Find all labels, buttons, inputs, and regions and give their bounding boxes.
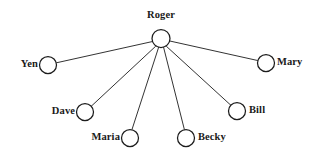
node-dave[interactable] bbox=[77, 104, 94, 121]
node-roger[interactable] bbox=[152, 30, 170, 48]
node-label-bill: Bill bbox=[249, 105, 265, 116]
nodes-layer bbox=[40, 30, 275, 147]
network-diagram: RogerYenMaryDaveBillMariaBecky bbox=[0, 0, 319, 158]
network-canvas bbox=[0, 0, 319, 158]
node-label-yen: Yen bbox=[21, 59, 38, 70]
node-label-maria: Maria bbox=[92, 132, 121, 143]
edge-roger-mary bbox=[170, 41, 258, 61]
node-becky[interactable] bbox=[178, 130, 195, 147]
node-yen[interactable] bbox=[40, 57, 57, 74]
node-label-mary: Mary bbox=[277, 57, 302, 68]
node-label-dave: Dave bbox=[52, 106, 75, 117]
node-maria[interactable] bbox=[122, 130, 139, 147]
edge-roger-dave bbox=[92, 46, 156, 106]
node-bill[interactable] bbox=[229, 103, 246, 120]
node-label-becky: Becky bbox=[198, 132, 226, 143]
edge-roger-maria bbox=[132, 47, 159, 129]
edge-roger-yen bbox=[56, 42, 152, 63]
node-label-roger: Roger bbox=[147, 10, 175, 21]
node-mary[interactable] bbox=[258, 55, 275, 72]
